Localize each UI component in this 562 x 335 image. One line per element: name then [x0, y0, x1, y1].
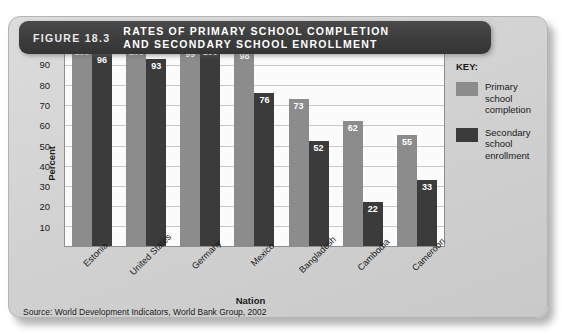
bar-group: 9876: [227, 45, 281, 246]
y-axis-tick-label: 60: [39, 120, 50, 131]
plot-area: 1009610093991009876735262225533: [64, 44, 445, 247]
y-axis-tick-label: 80: [39, 79, 50, 90]
bar-value-label: 73: [289, 101, 309, 111]
bar: 93: [146, 59, 166, 246]
bar: 33: [417, 180, 437, 246]
bar: 100: [72, 45, 92, 246]
x-axis-label-cell: Cambodia: [342, 249, 398, 295]
bars-layer: 1009610093991009876735262225533: [65, 45, 444, 246]
bar: 99: [180, 47, 200, 246]
figure-header: FIGURE 18.3 RATES OF PRIMARY SCHOOL COMP…: [19, 21, 491, 54]
bar: 96: [92, 53, 112, 246]
y-axis-tick-label: 50: [39, 140, 50, 151]
x-axis-label-cell: United States: [120, 249, 176, 295]
y-axis-ticks: 100908070605040302010: [22, 44, 56, 247]
bar-value-label: 76: [254, 95, 274, 105]
bar-group: 10093: [119, 45, 173, 246]
y-axis-tick-label: 70: [39, 99, 50, 110]
y-axis-tick-label: 40: [39, 160, 50, 171]
x-axis-label-cell: Mexico: [231, 249, 287, 295]
figure-card: FIGURE 18.3 RATES OF PRIMARY SCHOOL COMP…: [8, 16, 548, 318]
bar-value-label: 96: [92, 55, 112, 65]
bar-value-label: 22: [363, 204, 383, 214]
figure-title: RATES OF PRIMARY SCHOOL COMPLETION AND S…: [123, 25, 389, 51]
bar: 76: [254, 93, 274, 246]
bar: 55: [397, 135, 417, 246]
legend-item: Primary school completion: [456, 81, 544, 116]
bar-group: 5533: [390, 45, 444, 246]
bar: 98: [234, 49, 254, 246]
y-axis-tick-label: 10: [39, 221, 50, 232]
bar-value-label: 93: [146, 61, 166, 71]
y-axis-tick-label: 30: [39, 181, 50, 192]
chart-legend: KEY: Primary school completionSecondary …: [456, 61, 544, 172]
legend-label: Secondary school enrollment: [485, 127, 530, 162]
bar-value-label: 33: [417, 182, 437, 192]
bar: 100: [200, 45, 220, 246]
bar-group: 6222: [336, 45, 390, 246]
bar: 52: [309, 141, 329, 246]
bar: 73: [289, 99, 309, 246]
x-axis-label-cell: Germany: [175, 249, 231, 295]
bar-value-label: 55: [397, 137, 417, 147]
legend-swatch: [456, 128, 478, 142]
source-note: Source: World Development Indicators, Wo…: [23, 307, 266, 317]
legend-swatch: [456, 82, 478, 96]
x-axis-labels: EstoniaUnited StatesGermanyMexicoBanglad…: [64, 249, 453, 295]
bar-group: 7352: [282, 45, 336, 246]
y-axis-tick-label: 20: [39, 201, 50, 212]
bar: 62: [343, 121, 363, 246]
x-axis-label-cell: Cameroon: [397, 249, 453, 295]
legend-title: KEY:: [456, 61, 544, 72]
y-axis-tick-label: 90: [39, 59, 50, 70]
legend-label: Primary school completion: [485, 81, 544, 116]
figure-number: FIGURE 18.3: [33, 32, 110, 44]
bar: 100: [126, 45, 146, 246]
x-axis-title: Nation: [56, 295, 445, 306]
chart-plot-wrapper: Percent 100908070605040302010 1009610093…: [56, 44, 445, 247]
bar-group: 99100: [173, 45, 227, 246]
x-axis-label-cell: Bangladesh: [286, 249, 342, 295]
bar-value-label: 62: [343, 123, 363, 133]
legend-item: Secondary school enrollment: [456, 127, 544, 162]
legend-items: Primary school completionSecondary schoo…: [456, 81, 544, 161]
x-axis-label-cell: Estonia: [64, 249, 120, 295]
bar-group: 10096: [65, 45, 119, 246]
bar-value-label: 52: [309, 143, 329, 153]
